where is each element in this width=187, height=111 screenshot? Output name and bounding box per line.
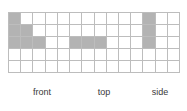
grid-cell-empty	[156, 37, 167, 48]
grid-cell-empty	[168, 49, 179, 60]
grid-cell-shaded	[33, 37, 44, 48]
grid-cell-empty	[156, 25, 167, 36]
grid-cell-shaded	[82, 37, 93, 48]
grid-cell-empty	[82, 61, 93, 72]
grid-cell-empty	[46, 25, 57, 36]
grid-cell-empty	[107, 13, 118, 24]
grid-cell-empty	[82, 13, 93, 24]
grid-cell-shaded	[143, 13, 154, 24]
label-front-view: front view	[18, 75, 66, 110]
grid-cell-empty	[58, 13, 69, 24]
grid-cell-empty	[33, 25, 44, 36]
grid-cell-empty	[21, 49, 32, 60]
grid-cell-empty	[107, 25, 118, 36]
grid-cell-empty	[131, 37, 142, 48]
grid-cell-empty	[9, 61, 20, 72]
grid-cell-shaded	[21, 37, 32, 48]
grid-cell-empty	[95, 13, 106, 24]
grid-cell-shaded	[143, 25, 154, 36]
grid-cell-shaded	[95, 37, 106, 48]
grid-cell-empty	[131, 13, 142, 24]
grid-cell-empty	[119, 13, 130, 24]
grid-cell-empty	[21, 13, 32, 24]
label-top-view-line2: view	[84, 110, 124, 111]
grid-container	[8, 12, 180, 73]
grid-cell-shaded	[9, 25, 20, 36]
grid-cell-empty	[119, 49, 130, 60]
label-front-view-line2: view	[18, 110, 66, 111]
view-labels: front view top view side view	[0, 74, 187, 110]
grid-cell-empty	[156, 49, 167, 60]
grid-cell-shaded	[143, 37, 154, 48]
grid-cell-empty	[119, 61, 130, 72]
grid-cell-empty	[70, 49, 81, 60]
grid-cell-empty	[70, 13, 81, 24]
label-top-view-line1: top	[84, 87, 124, 99]
grid-cell-shaded	[70, 37, 81, 48]
grid-cell-empty	[58, 37, 69, 48]
grid-cell-shaded	[9, 37, 20, 48]
label-side-view: side view	[140, 75, 180, 110]
grid-cell-empty	[9, 49, 20, 60]
grid-cell-empty	[58, 49, 69, 60]
grid-cell-empty	[46, 49, 57, 60]
label-side-view-line2: view	[140, 110, 180, 111]
grid-cell-empty	[95, 61, 106, 72]
square-grid	[8, 12, 180, 73]
grid-cell-empty	[143, 49, 154, 60]
label-side-view-line1: side	[140, 87, 180, 99]
label-top-view: top view	[84, 75, 124, 110]
grid-cell-empty	[70, 61, 81, 72]
grid-cell-empty	[107, 37, 118, 48]
orthographic-views-figure: front view top view side view	[0, 0, 187, 110]
grid-cell-empty	[33, 61, 44, 72]
grid-cell-empty	[119, 25, 130, 36]
grid-cell-empty	[82, 25, 93, 36]
grid-cell-empty	[58, 25, 69, 36]
grid-cell-empty	[95, 49, 106, 60]
grid-cell-empty	[156, 13, 167, 24]
grid-cell-empty	[95, 25, 106, 36]
grid-cell-empty	[131, 49, 142, 60]
grid-cell-empty	[21, 61, 32, 72]
grid-cell-empty	[33, 13, 44, 24]
grid-cell-empty	[168, 13, 179, 24]
grid-cell-empty	[58, 61, 69, 72]
grid-cell-empty	[131, 61, 142, 72]
grid-cell-empty	[119, 37, 130, 48]
grid-cell-empty	[107, 61, 118, 72]
grid-cell-empty	[168, 61, 179, 72]
grid-cell-empty	[156, 61, 167, 72]
grid-cell-shaded	[21, 25, 32, 36]
grid-cell-empty	[107, 49, 118, 60]
grid-cell-empty	[131, 25, 142, 36]
grid-cell-empty	[82, 49, 93, 60]
grid-cell-empty	[168, 37, 179, 48]
grid-cell-empty	[33, 49, 44, 60]
grid-cell-empty	[143, 61, 154, 72]
grid-cell-empty	[46, 61, 57, 72]
grid-cell-shaded	[9, 13, 20, 24]
grid-cell-empty	[46, 13, 57, 24]
label-front-view-line1: front	[18, 87, 66, 99]
grid-cell-empty	[70, 25, 81, 36]
grid-cell-empty	[168, 25, 179, 36]
grid-cell-empty	[46, 37, 57, 48]
